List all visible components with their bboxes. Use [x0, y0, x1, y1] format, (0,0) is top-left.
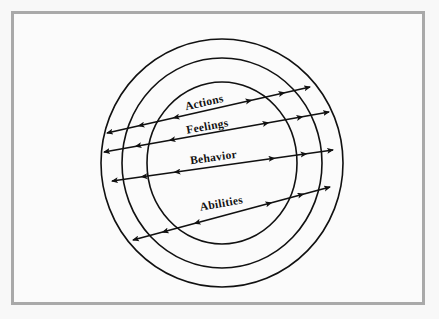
band-label-actions: Actions: [184, 92, 225, 112]
concentric-bands-diagram: Actions Feelings Behavior Abilities: [0, 0, 439, 319]
outer-ring: [101, 39, 343, 287]
diagram-page: Actions Feelings Behavior Abilities: [0, 0, 439, 319]
band-label-group: Actions Feelings Behavior Abilities: [184, 92, 244, 213]
band-label-behavior: Behavior: [189, 148, 237, 166]
band-label-abilities: Abilities: [199, 193, 244, 212]
ring-group: [101, 39, 343, 287]
middle-ring: [122, 58, 322, 268]
